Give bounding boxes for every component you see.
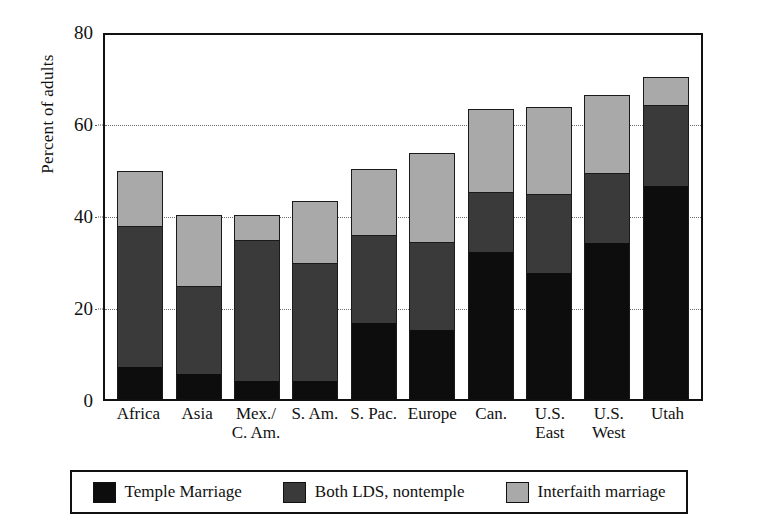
bar-column [468, 35, 514, 399]
x-tick-label: U.S.West [580, 404, 638, 452]
y-axis-ticks: 020406080 [0, 33, 103, 401]
legend-item: Temple Marriage [93, 482, 242, 503]
bar-segment [469, 252, 513, 399]
x-tick-label: Mex./C. Am. [227, 404, 285, 452]
bar-segment [469, 110, 513, 193]
x-axis-labels: AfricaAsiaMex./C. Am.S. Am.S. Pac.Europe… [103, 404, 703, 452]
x-tick-label-line: Mex./ [227, 404, 285, 423]
bar-segment [293, 381, 337, 399]
y-tick-label: 60 [74, 114, 93, 136]
y-tick-label: 20 [74, 298, 93, 320]
bar-segment [235, 381, 279, 399]
stacked-bar [643, 77, 689, 399]
bar-segment [118, 172, 162, 227]
y-tick-label: 40 [74, 206, 93, 228]
y-tick-mark [95, 309, 103, 310]
bar-segment [177, 374, 221, 399]
x-tick-label-line: U.S. [580, 404, 638, 423]
bar-segment [527, 195, 571, 273]
legend-swatch-icon [93, 482, 116, 503]
bar-segment [469, 193, 513, 253]
bar-column [292, 35, 338, 399]
x-tick-label: S. Pac. [345, 404, 403, 452]
x-tick-label-line: Asia [168, 404, 226, 423]
stacked-bar [292, 201, 338, 399]
x-tick-label: Europe [403, 404, 461, 452]
stacked-bar [234, 215, 280, 399]
bar-segment [585, 243, 629, 399]
bar-segment [235, 241, 279, 381]
y-tick-label: 0 [84, 390, 94, 412]
x-tick-label-line: S. Am. [286, 404, 344, 423]
bar-segment [644, 78, 688, 106]
bar-segment [177, 287, 221, 374]
bar-segment [410, 330, 454, 399]
bar-segment [644, 186, 688, 399]
bar-segment [352, 236, 396, 323]
x-tick-label: Asia [168, 404, 226, 452]
x-tick-label: Africa [109, 404, 167, 452]
bar-column [409, 35, 455, 399]
bar-segment [118, 367, 162, 399]
x-tick-label-line: Africa [109, 404, 167, 423]
bar-segment [352, 323, 396, 399]
stacked-bar [117, 171, 163, 399]
y-tick-mark [95, 125, 103, 126]
x-tick-label-line: Utah [639, 404, 697, 423]
x-tick-label-line: S. Pac. [345, 404, 403, 423]
bar-segment [410, 154, 454, 243]
bar-column [643, 35, 689, 399]
bar-segment [118, 227, 162, 367]
stacked-bar [526, 107, 572, 399]
legend-swatch-icon [283, 482, 306, 503]
legend-item: Both LDS, nontemple [283, 482, 465, 503]
bar-segment [585, 174, 629, 243]
chart-figure: Percent of adults 020406080 AfricaAsiaMe… [0, 0, 758, 531]
legend-item: Interfaith marriage [506, 482, 666, 503]
x-tick-label-line: West [580, 423, 638, 442]
bar-segment [235, 216, 279, 241]
bar-segment [527, 273, 571, 399]
bar-segment [293, 264, 337, 381]
bar-segment [177, 216, 221, 287]
bar-column [234, 35, 280, 399]
stacked-bar [176, 215, 222, 399]
bar-column [117, 35, 163, 399]
stacked-bar [584, 95, 630, 399]
x-tick-label: Can. [462, 404, 520, 452]
legend-label: Both LDS, nontemple [315, 482, 465, 502]
x-tick-label-line: Europe [403, 404, 461, 423]
bar-segment [585, 96, 629, 174]
x-tick-label-line: Can. [462, 404, 520, 423]
x-tick-label-line: East [521, 423, 579, 442]
stacked-bar [351, 169, 397, 399]
x-tick-label: U.S.East [521, 404, 579, 452]
bar-segment [293, 202, 337, 264]
bar-column [526, 35, 572, 399]
chart-legend: Temple MarriageBoth LDS, nontempleInterf… [70, 470, 688, 514]
y-tick-mark [95, 217, 103, 218]
bar-column [584, 35, 630, 399]
x-tick-label: S. Am. [286, 404, 344, 452]
bar-column [351, 35, 397, 399]
bar-segment [527, 108, 571, 195]
legend-label: Interfaith marriage [538, 482, 666, 502]
bar-group [105, 35, 701, 399]
bar-segment [644, 106, 688, 186]
y-tick-label: 80 [74, 22, 93, 44]
stacked-bar [409, 153, 455, 399]
x-tick-label: Utah [639, 404, 697, 452]
legend-swatch-icon [506, 482, 529, 503]
bar-segment [352, 170, 396, 236]
legend-label: Temple Marriage [125, 482, 242, 502]
plot-area [103, 33, 703, 401]
stacked-bar [468, 109, 514, 399]
x-tick-label-line: C. Am. [227, 423, 285, 442]
bar-segment [410, 243, 454, 330]
x-tick-label-line: U.S. [521, 404, 579, 423]
bar-column [176, 35, 222, 399]
